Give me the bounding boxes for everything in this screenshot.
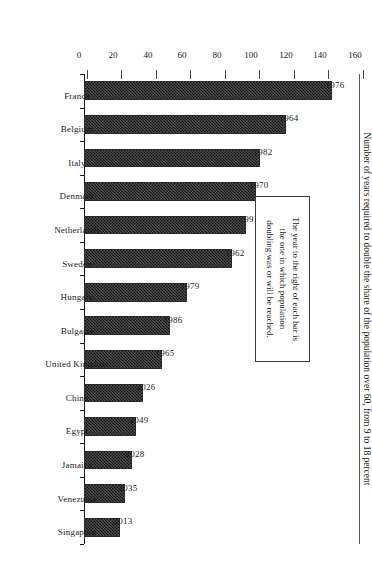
value-tick: [294, 70, 295, 79]
bar-value-label: 1970: [250, 180, 269, 191]
bar: [84, 316, 170, 335]
bar-value-label: 1982: [254, 147, 273, 158]
bar: [84, 283, 188, 302]
bar-value-label: 1964: [279, 113, 298, 124]
value-tick-label: 100: [245, 50, 259, 60]
bar-group: 1964Belgium: [84, 115, 360, 134]
bar-value-label: 2035: [119, 483, 138, 494]
value-tick: [122, 70, 123, 79]
category-label: Egypt: [66, 426, 89, 437]
bar: [84, 216, 246, 235]
category-label: Venezuela: [58, 494, 97, 505]
value-tick-label: 120: [279, 50, 293, 60]
category-axis-line: [84, 74, 85, 544]
value-axis-title: Number of years required to double the s…: [361, 74, 372, 544]
category-tick: [80, 309, 84, 310]
rotated-chart-stage: Number of years required to double the s…: [0, 0, 372, 568]
bar-value-label: 2013: [114, 516, 133, 527]
bar-group: 2049Egypt: [84, 417, 360, 436]
category-tick: [80, 343, 84, 344]
bar-group: 1982Italy: [84, 149, 360, 168]
bar-group: 2026China: [84, 384, 360, 403]
annotation-line-2: the one in which population: [276, 206, 289, 352]
bar-group: 1979Hungary: [84, 283, 360, 302]
category-label: Denmark: [60, 191, 95, 202]
category-label: China: [66, 393, 89, 404]
bar-value-label: 2026: [136, 382, 155, 393]
value-tick: [225, 70, 226, 79]
category-tick: [80, 410, 84, 411]
value-tick-label: 40: [144, 50, 153, 60]
bar: [84, 81, 332, 100]
bar-group: 1986Bulgaria: [84, 316, 360, 335]
value-axis-line: [359, 74, 360, 544]
category-label: Singapore: [58, 527, 96, 538]
bar-value-label: 2049: [129, 415, 148, 426]
bar: [84, 182, 257, 201]
value-tick: [191, 70, 192, 79]
annotation-line-1: The year to the right of each bar is: [289, 206, 302, 352]
category-label: Hungary: [61, 292, 94, 303]
bar: [84, 384, 143, 403]
category-label: Bulgaria: [61, 326, 94, 337]
bar-value-label: 1986: [164, 315, 183, 326]
category-label: United Kingdom: [45, 359, 109, 370]
bar-value-label: 1962: [226, 248, 245, 259]
bar-group: 1965United Kingdom: [84, 350, 360, 369]
bar-value-label: 1979: [181, 281, 200, 292]
category-tick: [80, 175, 84, 176]
category-tick: [80, 443, 84, 444]
category-tick: [80, 544, 84, 545]
bar-value-label: 1976: [326, 80, 345, 91]
bar-group: 1976France: [84, 81, 360, 100]
value-tick-label: 60: [178, 50, 187, 60]
category-tick: [80, 108, 84, 109]
value-tick-label: 0: [77, 50, 82, 60]
bar: [84, 417, 136, 436]
value-tick: [329, 70, 330, 79]
category-label: Netherlands: [54, 225, 100, 236]
value-tick-label: 160: [348, 50, 362, 60]
bar: [84, 249, 232, 268]
bar-group: 2028Jamaica: [84, 451, 360, 470]
category-tick: [80, 275, 84, 276]
annotation-line-3: doubling was or will be reached.: [263, 206, 276, 352]
value-tick: [363, 70, 364, 79]
bar-group: 2013Singapore: [84, 518, 360, 537]
bar-value-label: 1965: [155, 348, 174, 359]
category-tick: [80, 141, 84, 142]
annotation-box: The year to the right of each bar is the…: [255, 196, 310, 362]
value-tick-label: 140: [314, 50, 328, 60]
bar-group: 1962Sweden: [84, 249, 360, 268]
category-label: Sweden: [62, 259, 92, 270]
category-tick: [80, 376, 84, 377]
bar: [84, 115, 286, 134]
category-tick: [80, 510, 84, 511]
value-tick: [87, 70, 88, 79]
category-label: Italy: [68, 158, 86, 169]
value-tick: [260, 70, 261, 79]
category-tick: [80, 208, 84, 209]
category-tick: [80, 74, 84, 75]
category-label: Jamaica: [62, 460, 92, 471]
bar-group: 2035Venezuela: [84, 484, 360, 503]
category-label: France: [64, 91, 90, 102]
bar-group: 1991Netherlands: [84, 216, 360, 235]
bar-group: 1970Denmark: [84, 182, 360, 201]
category-tick: [80, 477, 84, 478]
value-tick-label: 80: [213, 50, 222, 60]
chart-figure: Number of years required to double the s…: [0, 0, 372, 568]
category-tick: [80, 242, 84, 243]
plot-area: 020406080100120140160 1976France1964Belg…: [84, 74, 360, 544]
value-tick-label: 20: [109, 50, 118, 60]
category-label: Belgium: [61, 124, 93, 135]
value-tick: [156, 70, 157, 79]
bar-value-label: 2028: [126, 449, 145, 460]
bar: [84, 149, 260, 168]
